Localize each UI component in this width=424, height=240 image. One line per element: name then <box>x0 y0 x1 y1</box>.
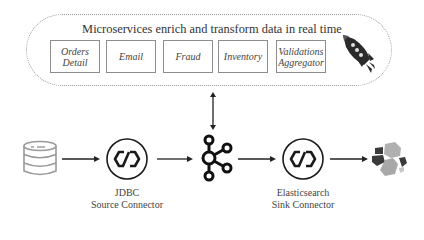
arrow-jdbc-to-kafka <box>157 155 193 163</box>
bidirectional-arrow <box>209 92 217 130</box>
elasticsearch-sink-connector-label: Elasticsearch Sink Connector <box>258 187 348 211</box>
arrow-kafka-to-es-connector <box>238 155 276 163</box>
jdbc-connector-icon <box>105 137 149 181</box>
service-label: Fraud <box>176 51 201 62</box>
service-label: Validations Aggregator <box>278 46 324 68</box>
arrow-es-connector-to-elasticsearch <box>330 155 368 163</box>
service-validations-aggregator: Validations Aggregator <box>276 40 326 73</box>
rocket-icon <box>340 33 380 78</box>
service-label: Inventory <box>224 51 262 62</box>
elasticsearch-icon <box>371 142 407 176</box>
service-email: Email <box>106 40 156 73</box>
arrow-db-to-jdbc <box>62 155 100 163</box>
service-fraud: Fraud <box>163 40 213 73</box>
jdbc-source-connector-label: JDBC Source Connector <box>82 187 172 211</box>
elasticsearch-connector-icon <box>281 137 325 181</box>
service-orders-detail: Orders Detail <box>50 40 100 73</box>
service-inventory: Inventory <box>218 40 268 73</box>
service-label: Email <box>119 51 143 62</box>
service-label: Orders Detail <box>61 46 89 68</box>
kafka-icon <box>199 134 235 182</box>
database-icon <box>21 140 59 178</box>
